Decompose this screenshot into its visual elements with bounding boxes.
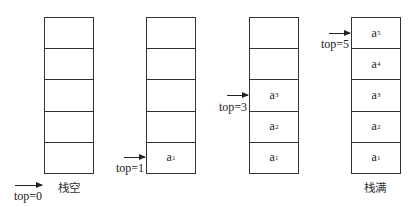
stack-cell: a2 — [250, 111, 298, 142]
stack-cell — [147, 111, 195, 142]
top-pointer-label: top=5 — [321, 37, 349, 52]
stack-cell: a3 — [250, 79, 298, 110]
stack-caption: 栈满 — [364, 179, 386, 195]
top-pointer-label: top=3 — [219, 100, 247, 115]
stack-one-element: a1 — [146, 17, 196, 174]
stack-full: a1 a2 a3 a4 a5 — [351, 17, 401, 174]
top-pointer-arrow-icon — [329, 33, 350, 34]
stack-three-elements: a1 a2 a3 — [249, 17, 299, 174]
stack-cell — [45, 18, 93, 48]
stack-cell: a2 — [352, 111, 400, 142]
stack-cell — [250, 48, 298, 79]
top-pointer-arrow-icon — [15, 185, 42, 186]
stack-cell — [45, 48, 93, 79]
stack-cell — [45, 111, 93, 142]
stack-cell — [147, 79, 195, 110]
stack-cell — [45, 79, 93, 110]
stack-cell: a1 — [250, 142, 298, 173]
stack-cell — [45, 142, 93, 173]
stack-cell — [147, 48, 195, 79]
stack-cell — [147, 18, 195, 48]
stack-cell — [250, 18, 298, 48]
top-pointer-label: top=1 — [116, 161, 144, 176]
top-pointer-arrow-icon — [227, 95, 248, 96]
stack-empty — [44, 17, 94, 174]
stack-cell: a5 — [352, 18, 400, 48]
stack-cell: a4 — [352, 48, 400, 79]
stack-cell: a1 — [147, 142, 195, 173]
top-pointer-label: top=0 — [14, 189, 42, 204]
top-pointer-arrow-icon — [124, 157, 145, 158]
stack-cell: a1 — [352, 142, 400, 173]
stack-caption: 栈空 — [58, 179, 80, 195]
stack-cell: a3 — [352, 79, 400, 110]
